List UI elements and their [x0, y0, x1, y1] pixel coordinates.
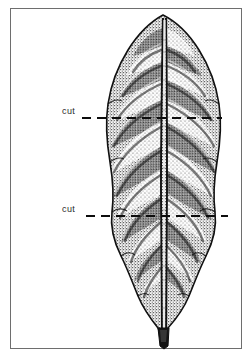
leaf-midrib [161, 18, 167, 332]
leaf-petiole [158, 328, 169, 349]
leaf-body [100, 10, 230, 350]
cut-label-top: cut [62, 107, 75, 116]
cut-label-bottom: cut [62, 205, 75, 214]
figure-root: cut cut [0, 0, 252, 361]
leaf-illustration [0, 0, 252, 361]
